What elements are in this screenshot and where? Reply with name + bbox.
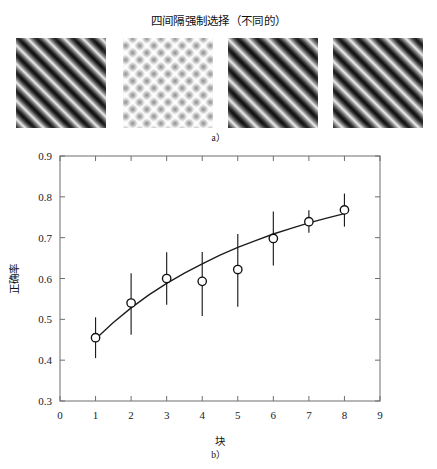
accuracy-plot: 0.30.40.50.60.70.80.90123456789块正确率	[0, 146, 437, 446]
y-axis-label: 正确率	[8, 264, 20, 294]
panel-b-caption: b）	[0, 447, 437, 461]
x-tick-label: 2	[128, 409, 134, 421]
data-point-marker[interactable]	[162, 274, 170, 282]
x-tick-label: 5	[235, 409, 241, 421]
plot-frame	[60, 156, 380, 401]
x-tick-label: 1	[93, 409, 99, 421]
fitted-curve	[96, 214, 345, 339]
y-tick-label: 0.4	[38, 354, 52, 366]
data-point-marker[interactable]	[234, 265, 242, 273]
x-axis-label: 块	[215, 436, 226, 446]
x-tick-label: 3	[164, 409, 170, 421]
data-point-marker[interactable]	[305, 218, 313, 226]
y-tick-label: 0.5	[38, 313, 52, 325]
texture-patch-4[interactable]	[333, 38, 423, 128]
figure-title: 四间隔强制选择（不同的）	[0, 12, 437, 28]
panel-a-caption: a）	[0, 130, 437, 144]
x-tick-label: 6	[271, 409, 277, 421]
x-tick-label: 4	[199, 409, 205, 421]
data-point-marker[interactable]	[91, 334, 99, 342]
data-point-marker[interactable]	[198, 277, 206, 285]
data-point-marker[interactable]	[269, 234, 277, 242]
y-tick-label: 0.3	[38, 395, 52, 407]
x-tick-label: 0	[57, 409, 63, 421]
x-tick-label: 9	[377, 409, 383, 421]
y-tick-label: 0.6	[38, 273, 52, 285]
data-point-marker[interactable]	[127, 299, 135, 307]
y-tick-label: 0.9	[38, 150, 52, 162]
y-tick-label: 0.8	[38, 191, 52, 203]
texture-patch-3[interactable]	[228, 38, 318, 128]
plot-svg: 0.30.40.50.60.70.80.90123456789块正确率	[0, 146, 437, 446]
x-tick-label: 7	[306, 409, 312, 421]
texture-patch-2[interactable]	[123, 38, 213, 128]
texture-stimuli-row	[0, 38, 437, 130]
x-tick-label: 8	[342, 409, 348, 421]
texture-patch-1[interactable]	[16, 38, 106, 128]
figure-root: 四间隔强制选择（不同的） a） 0.30.40.50.60.70.80.9012…	[0, 0, 437, 469]
data-point-marker[interactable]	[340, 206, 348, 214]
y-tick-label: 0.7	[38, 232, 52, 244]
